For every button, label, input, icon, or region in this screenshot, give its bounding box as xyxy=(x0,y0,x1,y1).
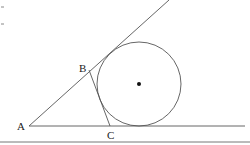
geometry-diagram: A B C xyxy=(0,0,250,145)
label-c: C xyxy=(107,129,114,141)
ray-upper xyxy=(29,0,169,126)
circle-center xyxy=(137,82,141,86)
label-a: A xyxy=(17,120,25,132)
label-b: B xyxy=(79,62,86,74)
